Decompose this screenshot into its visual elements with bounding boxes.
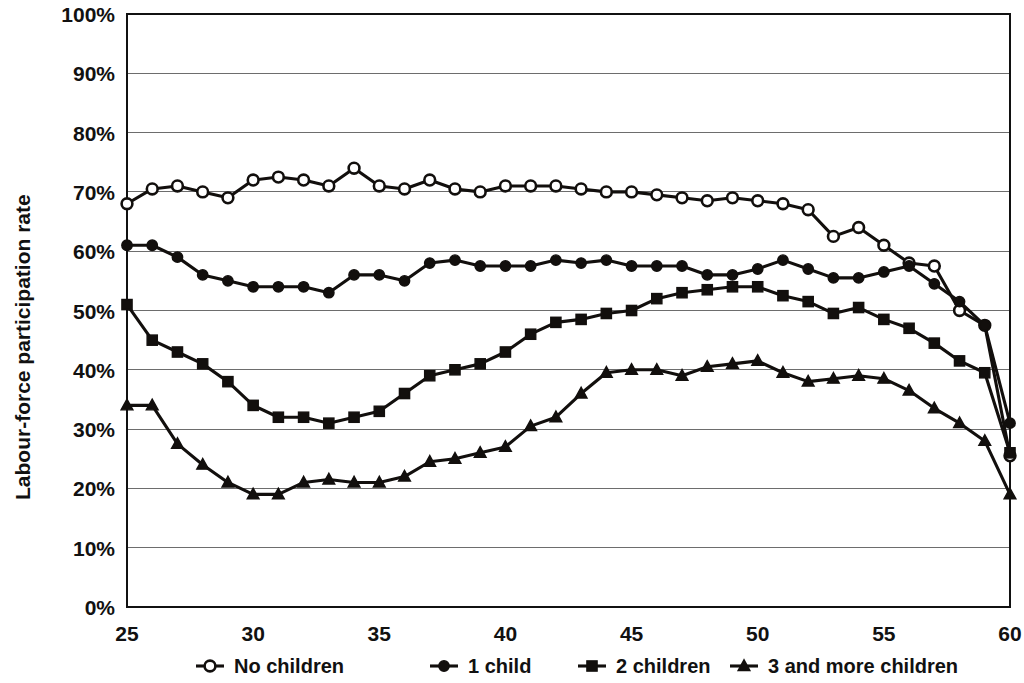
data-point — [323, 181, 334, 192]
data-point — [677, 192, 688, 203]
data-point — [374, 270, 384, 280]
data-point — [349, 412, 359, 422]
data-point — [879, 267, 889, 277]
x-tick-label-55: 55 — [872, 622, 896, 645]
data-point — [1005, 418, 1015, 428]
data-point — [349, 163, 360, 174]
data-point — [753, 264, 763, 274]
data-point — [273, 282, 283, 292]
data-point — [248, 400, 258, 410]
data-point — [803, 297, 813, 307]
data-point — [626, 187, 637, 198]
data-point — [702, 285, 712, 295]
data-point — [576, 314, 586, 324]
legend-marker-icon — [205, 661, 216, 672]
data-point — [299, 412, 309, 422]
data-point — [778, 255, 788, 265]
data-point — [399, 388, 409, 398]
x-tick-label-40: 40 — [494, 622, 517, 645]
data-point — [349, 270, 359, 280]
data-point — [147, 335, 157, 345]
y-tick-label-30: 30% — [73, 418, 115, 441]
y-axis-title: Labour-force participation rate — [11, 194, 34, 500]
data-point — [752, 195, 763, 206]
data-point — [853, 273, 863, 283]
data-point — [450, 255, 460, 265]
data-point — [954, 356, 964, 366]
data-point — [424, 175, 435, 186]
data-point — [601, 255, 611, 265]
data-point — [273, 412, 283, 422]
y-tick-label-80: 80% — [73, 122, 115, 145]
data-point — [904, 261, 914, 271]
data-point — [651, 189, 662, 200]
data-point — [878, 240, 889, 251]
data-point — [753, 282, 763, 292]
x-tick-label-60: 60 — [998, 622, 1021, 645]
legend-label: 1 child — [468, 655, 531, 677]
data-point — [980, 320, 990, 330]
data-point — [223, 276, 233, 286]
data-point — [525, 261, 535, 271]
data-point — [273, 172, 284, 183]
x-tick-label-35: 35 — [368, 622, 392, 645]
data-point — [929, 338, 939, 348]
data-point — [576, 258, 586, 268]
data-point — [147, 184, 158, 195]
data-point — [122, 198, 133, 209]
legend-label: 2 children — [616, 655, 710, 677]
data-point — [652, 261, 662, 271]
data-point — [929, 261, 940, 272]
data-point — [324, 418, 334, 428]
y-tick-label-10: 10% — [73, 537, 115, 560]
data-point — [853, 222, 864, 233]
legend-marker-icon — [587, 661, 597, 671]
data-point — [223, 192, 234, 203]
data-point — [122, 240, 132, 250]
y-tick-label-50: 50% — [73, 300, 115, 323]
data-point — [980, 368, 990, 378]
data-point — [450, 184, 461, 195]
y-tick-label-70: 70% — [73, 181, 115, 204]
data-point — [551, 255, 561, 265]
data-point — [677, 261, 687, 271]
data-point — [677, 288, 687, 298]
data-point — [727, 192, 738, 203]
data-point — [147, 240, 157, 250]
legend-marker-icon — [439, 661, 449, 671]
y-tick-label-90: 90% — [73, 62, 115, 85]
data-point — [475, 261, 485, 271]
data-point — [526, 329, 536, 339]
data-point — [551, 317, 561, 327]
data-point — [576, 184, 587, 195]
legend-label: No children — [234, 655, 344, 677]
data-point — [854, 302, 864, 312]
data-point — [828, 273, 838, 283]
data-point — [172, 252, 182, 262]
data-point — [374, 181, 385, 192]
data-point — [702, 195, 713, 206]
data-point — [399, 276, 409, 286]
data-point — [828, 308, 838, 318]
data-point — [601, 308, 611, 318]
data-point — [248, 175, 259, 186]
legend-label: 3 and more children — [768, 655, 958, 677]
x-tick-label-45: 45 — [620, 622, 644, 645]
data-point — [879, 314, 889, 324]
data-point — [828, 231, 839, 242]
data-point — [652, 294, 662, 304]
data-point — [626, 305, 636, 315]
data-point — [778, 291, 788, 301]
data-point — [904, 323, 914, 333]
data-point — [727, 282, 737, 292]
x-tick-label-25: 25 — [115, 622, 139, 645]
y-tick-label-100: 100% — [61, 3, 115, 26]
data-point — [198, 359, 208, 369]
data-point — [1005, 448, 1015, 458]
data-point — [450, 365, 460, 375]
data-point — [122, 299, 132, 309]
y-tick-label-20: 20% — [73, 477, 115, 500]
data-point — [626, 261, 636, 271]
data-point — [172, 181, 183, 192]
data-point — [500, 261, 510, 271]
